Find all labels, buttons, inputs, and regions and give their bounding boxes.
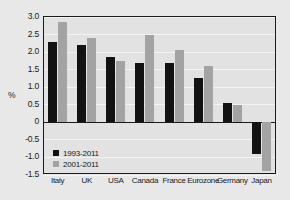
legend-label: 2001-2011 (63, 160, 99, 169)
bar[interactable] (204, 66, 213, 122)
bar-group (131, 17, 160, 173)
bar[interactable] (87, 38, 96, 122)
bar-group (102, 17, 131, 173)
y-axis-tick-label: -1.0 (25, 151, 39, 161)
x-axis-tick-label: USA (108, 176, 124, 185)
x-axis-tick-label: France (163, 176, 186, 185)
bar[interactable] (194, 78, 203, 122)
y-axis-tick-label: -1.5 (25, 169, 39, 179)
bar[interactable] (262, 122, 271, 171)
y-axis-tick-label: 0.5 (28, 99, 39, 109)
x-axis-tick-label: UK (81, 176, 92, 185)
x-axis-tick-label: Italy (51, 176, 64, 185)
bar[interactable] (77, 45, 86, 122)
bar[interactable] (58, 22, 67, 122)
bar[interactable] (48, 42, 57, 123)
y-axis: 3.02.52.01.51.00.50-0.5-1.0-1.5 (0, 16, 43, 174)
legend-item[interactable]: 2001-2011 (53, 159, 99, 169)
bar[interactable] (135, 63, 144, 123)
x-axis-tick-label: Eurozone (187, 176, 219, 185)
bar[interactable] (116, 61, 125, 122)
bar[interactable] (175, 50, 184, 122)
chart-legend: 1993-20112001-2011 (53, 148, 99, 170)
y-axis-tick-label: 3.0 (28, 11, 39, 21)
y-axis-title: % (8, 90, 16, 100)
x-axis-tick-label: Germany (217, 176, 248, 185)
legend-label: 1993-2011 (63, 149, 99, 158)
bar[interactable] (165, 63, 174, 123)
bar-group (190, 17, 219, 173)
y-axis-tick-label: 2.5 (28, 29, 39, 39)
y-axis-tick-label: 1.0 (28, 81, 39, 91)
legend-swatch-icon (53, 161, 59, 167)
y-axis-tick-label: 1.5 (28, 64, 39, 74)
bar[interactable] (106, 57, 115, 122)
chart-figure: 3.02.52.01.51.00.50-0.5-1.0-1.5 % ItalyU… (0, 0, 290, 200)
x-axis-tick-label: Japan (251, 176, 271, 185)
bar-group (248, 17, 277, 173)
legend-item[interactable]: 1993-2011 (53, 148, 99, 158)
bar-group (219, 17, 248, 173)
bar[interactable] (233, 105, 242, 122)
bar[interactable] (223, 103, 232, 122)
y-axis-tick-label: 2.0 (28, 46, 39, 56)
y-axis-tick-label: 0 (34, 116, 39, 126)
bar[interactable] (252, 122, 261, 154)
legend-swatch-icon (53, 150, 59, 156)
bar-group (161, 17, 190, 173)
y-axis-tick-label: -0.5 (25, 134, 39, 144)
bar[interactable] (145, 35, 154, 123)
x-axis-tick-label: Canada (132, 176, 158, 185)
x-axis-labels: ItalyUKUSACanadaFranceEurozoneGermanyJap… (43, 176, 276, 192)
